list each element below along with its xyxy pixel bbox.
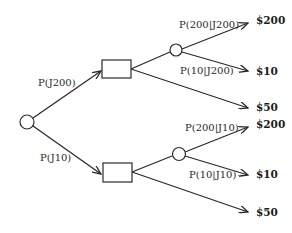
bottom-chance-lo-label: P(10|J10) — [189, 169, 236, 181]
top-chance-lo-label: P(10|J200) — [180, 65, 234, 77]
top-branch-label: P(J200) — [38, 77, 76, 88]
top-decision-node — [102, 60, 131, 78]
bottom-branch-label: P(J10) — [40, 152, 71, 163]
top-payoff-200: $200 — [256, 14, 285, 26]
root-chance-node — [20, 115, 34, 129]
bottom-chance-hi-label: P(200|J10) — [185, 122, 239, 134]
bottom-chance-node — [173, 148, 186, 161]
top-payoff-50: $50 — [256, 101, 278, 113]
top-payoff-10: $10 — [256, 65, 278, 77]
top-chance-node — [170, 44, 182, 56]
edge-bottom-decision-to-chance — [132, 156, 172, 172]
bottom-decision-node — [103, 163, 132, 182]
bottom-payoff-10: $10 — [256, 168, 278, 180]
bottom-payoff-50: $50 — [256, 206, 278, 218]
edge-top-decision-to-chance — [131, 52, 170, 69]
edge-root-to-bottom-decision — [33, 126, 101, 174]
decision-tree-diagram: P(J200) P(J10) P(200|J200) P(10|J200) P(… — [0, 0, 292, 233]
top-chance-hi-label: P(200|J200) — [179, 19, 239, 31]
bottom-payoff-200: $200 — [256, 118, 285, 130]
